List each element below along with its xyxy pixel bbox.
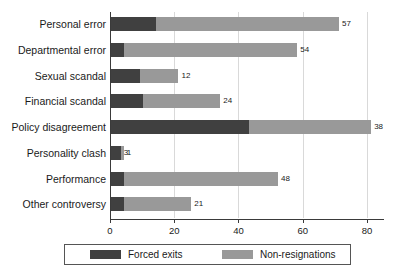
tick-mark (174, 219, 175, 223)
x-tick-label: 40 (233, 225, 244, 236)
stacked-bar[interactable]: 421 (111, 197, 191, 211)
tick-mark (238, 219, 239, 223)
category-label: Performance (46, 172, 106, 186)
bar-segment-forced-exits[interactable] (111, 94, 143, 108)
stacked-bar[interactable]: 4338 (111, 120, 371, 134)
stacked-bar[interactable]: 912 (111, 69, 178, 83)
bar-value-label: 24 (223, 95, 232, 107)
legend-entry[interactable]: Non-resignations (208, 249, 351, 260)
bar-row: 4338 (110, 115, 383, 141)
stacked-bar[interactable]: 454 (111, 43, 297, 57)
plot-area: 14574549121024433831448421 (110, 12, 383, 218)
bar-row: 1024 (110, 89, 383, 115)
stacked-bar[interactable]: 448 (111, 172, 278, 186)
legend-swatch-icon (222, 250, 253, 259)
bar-segment-non-resignations[interactable] (143, 94, 220, 108)
bar-segment-non-resignations[interactable] (121, 146, 124, 160)
bar-segment-non-resignations[interactable] (124, 172, 278, 186)
stacked-bar[interactable]: 1457 (111, 17, 339, 31)
bar-value-label: 38 (374, 121, 383, 133)
tick-mark (367, 219, 368, 223)
category-label: Departmental error (18, 43, 106, 57)
bar-value-label: 1 (127, 147, 131, 159)
bar-row: 912 (110, 64, 383, 90)
category-label: Personality clash (27, 146, 106, 160)
legend-label: Non-resignations (260, 249, 336, 260)
bar-segment-non-resignations[interactable] (249, 120, 371, 134)
tick-mark (110, 219, 111, 223)
bar-row: 31 (110, 141, 383, 167)
category-label: Personal error (39, 17, 106, 31)
stacked-bar[interactable]: 31 (111, 146, 124, 160)
bar-value-label: 54 (300, 44, 309, 56)
category-label: Financial scandal (25, 94, 106, 108)
bar-segment-non-resignations[interactable] (124, 43, 297, 57)
bar-row: 448 (110, 167, 383, 193)
x-tick-label: 0 (107, 225, 112, 236)
bar-segment-forced-exits[interactable] (111, 197, 124, 211)
bar-row: 454 (110, 38, 383, 64)
x-tick-label: 80 (362, 225, 373, 236)
bar-segment-forced-exits[interactable] (111, 69, 140, 83)
chart-legend: Forced exitsNon-resignations (64, 244, 351, 265)
bar-segment-forced-exits[interactable] (111, 120, 249, 134)
stacked-bar-chart: 14574549121024433831448421 020406080 Per… (0, 0, 412, 278)
bar-row: 421 (110, 192, 383, 218)
bar-segment-forced-exits[interactable] (111, 172, 124, 186)
bar-value-label: 21 (194, 198, 203, 210)
x-tick-label: 60 (297, 225, 308, 236)
bar-segment-forced-exits[interactable] (111, 17, 156, 31)
bar-segment-non-resignations[interactable] (140, 69, 179, 83)
bar-segment-forced-exits[interactable] (111, 43, 124, 57)
bar-value-label: 12 (181, 70, 190, 82)
bar-value-label: 48 (281, 173, 290, 185)
bar-segment-forced-exits[interactable] (111, 146, 121, 160)
bar-value-label: 57 (342, 18, 351, 30)
y-axis-line (110, 12, 111, 220)
bar-row: 1457 (110, 12, 383, 38)
tick-mark (303, 219, 304, 223)
category-label: Other controversy (23, 197, 106, 211)
legend-swatch-icon (90, 250, 121, 259)
bar-segment-non-resignations[interactable] (156, 17, 339, 31)
legend-entry[interactable]: Forced exits (65, 249, 208, 260)
x-axis-line (110, 219, 384, 220)
category-label: Sexual scandal (35, 69, 106, 83)
bar-segment-non-resignations[interactable] (124, 197, 191, 211)
x-tick-label: 20 (169, 225, 180, 236)
legend-label: Forced exits (128, 249, 182, 260)
stacked-bar[interactable]: 1024 (111, 94, 220, 108)
category-label: Policy disagreement (11, 120, 106, 134)
